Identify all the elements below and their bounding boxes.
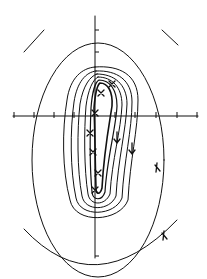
outer-arcs (24, 30, 178, 265)
diagram-svg (0, 0, 207, 279)
contour-set (64, 67, 138, 218)
contour-diagram (0, 0, 207, 279)
horizontal-axis (13, 112, 198, 118)
contour-outer (32, 43, 164, 277)
